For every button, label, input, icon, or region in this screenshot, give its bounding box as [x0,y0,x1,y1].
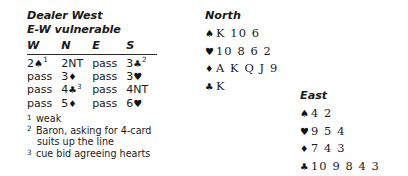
club-icon: ♣ [133,58,141,69]
footnote-item: 1weak [27,113,179,125]
auction-bid-north: 4♣3 [61,83,92,96]
auction-bid-south: 3♣2 [126,54,157,70]
auction-bid-east: pass [92,97,126,110]
bid-value: 6♥ [126,97,142,110]
bid-value: 2♠1 [27,57,48,70]
hand-suit-cards: 7 4 3 [311,141,345,155]
hand-north-rows: ♠K 10 6♥10 8 6 2♦A K Q J 9♣K [205,25,278,95]
hand-suit-cards: 10 9 8 4 3 [311,159,380,173]
club-icon: ♣ [300,158,311,176]
auction-bid-west: pass [27,83,61,96]
auction-bid-north: 5♦ [61,97,92,110]
bid-value: 4♣3 [61,83,81,96]
hand-east-rows: ♠4 2♥9 5 4♦7 4 3♣10 9 8 4 3 [300,105,380,175]
auction-bid-north: 2NT [61,54,92,70]
auction-bid-east: pass [92,83,126,96]
auction-bid-east: pass [92,70,126,83]
auction-bid-south: 3♥ [126,70,157,83]
auction-bid-south: 4NT [126,83,157,96]
bid-value: 2NT [61,57,83,70]
auction-bid-south: 6♥ [126,97,157,110]
footnote-marker: 2 [27,123,32,135]
bid-value: 5♦ [61,97,76,110]
auction-bid-west: 2♠1 [27,54,61,70]
hand-suit-row: ♠4 2 [300,105,380,123]
dealer-line: Dealer West [27,9,187,23]
auction-body: 2♠12NTpass3♣2pass3♦pass3♥pass4♣3pass4NTp… [27,54,157,110]
footnote-text: Baron, asking for 4-card [36,125,179,137]
club-icon: ♣ [205,78,216,96]
hand-east-label: East [300,89,380,103]
auction-column-header-north: N [61,39,92,54]
auction-column-header-east: E [92,39,126,54]
diamond-icon: ♦ [300,140,311,158]
hand-north-label: North [205,9,278,23]
hand-suit-row: ♣10 9 8 4 3 [300,158,380,176]
footnote-item: 2Baron, asking for 4-cardsuits up the li… [27,125,179,148]
hand-suit-row: ♥10 8 6 2 [205,43,278,61]
hand-suit-cards: K 10 6 [216,26,260,40]
bid-value: 4NT [126,83,148,96]
auction-row: 2♠12NTpass3♣2 [27,54,157,70]
bid-value: pass [92,97,117,110]
bid-value: pass [27,97,52,110]
heart-icon: ♥ [205,43,216,61]
hand-suit-row: ♥9 5 4 [300,123,380,141]
bid-value: pass [92,83,117,96]
auction-column-header-south: S [126,39,157,54]
auction-bid-west: pass [27,70,61,83]
hand-suit-row: ♠K 10 6 [205,25,278,43]
auction-row: pass4♣3pass4NT [27,83,157,96]
auction-row: pass5♦pass6♥ [27,97,157,110]
footnote-marker: 1 [27,112,32,124]
hand-suit-cards: A K Q J 9 [216,61,278,75]
auction-row: pass3♦pass3♥ [27,70,157,83]
hand-suit-cards: 9 5 4 [311,124,345,138]
bid-value: 3♦ [61,70,76,83]
footnote-item: 3cue bid agreeing hearts [27,148,179,160]
hand-east: East ♠4 2♥9 5 4♦7 4 3♣10 9 8 4 3 [300,89,380,175]
hand-suit-cards: 10 8 6 2 [216,44,272,58]
spade-icon: ♠ [205,25,216,43]
auction-bid-east: pass [92,54,126,70]
diamond-icon: ♦ [68,71,76,82]
bid-footnote-marker: 3 [77,82,82,91]
heart-icon: ♥ [133,98,142,109]
hand-suit-row: ♣K [205,78,278,96]
diamond-icon: ♦ [68,98,76,109]
deal-header: Dealer West E-W vulnerable [27,9,187,36]
bid-value: pass [92,57,117,70]
footnote-text: cue bid agreeing hearts [36,148,179,160]
hand-suit-cards: K [216,79,226,93]
footnotes-list: 1weak2Baron, asking for 4-cardsuits up t… [27,113,179,159]
footnote-marker: 3 [27,147,32,159]
bid-value: pass [27,70,52,83]
footnote-text-continued: suits up the line [36,136,179,148]
auction-column-header-west: W [27,39,61,54]
auction-table: W N E S 2♠12NTpass3♣2pass3♦pass3♥pass4♣3… [27,39,157,110]
hand-north: North ♠K 10 6♥10 8 6 2♦A K Q J 9♣K [205,9,278,95]
hand-suit-row: ♦7 4 3 [300,140,380,158]
diamond-icon: ♦ [205,60,216,78]
heart-icon: ♥ [300,123,311,141]
club-icon: ♣ [68,84,76,95]
bid-value: pass [27,83,52,96]
spade-icon: ♠ [34,58,43,69]
bid-value: pass [92,70,117,83]
bid-value: 3♣2 [126,57,146,70]
footnote-text: weak [36,113,179,125]
auction-block: Dealer West E-W vulnerable W N E S 2♠12N… [27,9,187,160]
hand-suit-cards: 4 2 [311,106,332,120]
vulnerability-line: E-W vulnerable [27,23,187,37]
bid-value: 3♥ [126,70,142,83]
heart-icon: ♥ [133,71,142,82]
bid-footnote-marker: 1 [43,55,48,64]
hand-suit-row: ♦A K Q J 9 [205,60,278,78]
auction-bid-west: pass [27,97,61,110]
spade-icon: ♠ [300,105,311,123]
auction-header-row: W N E S [27,39,157,54]
bid-footnote-marker: 2 [142,55,147,64]
